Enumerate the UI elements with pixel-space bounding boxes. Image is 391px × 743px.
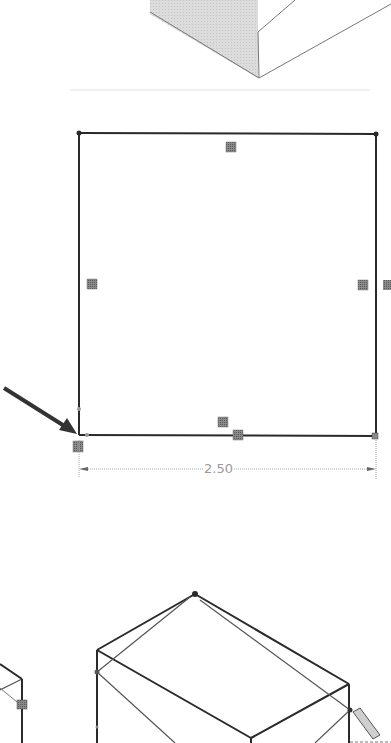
midpoint-relation-icon: [233, 430, 243, 440]
callout-arrow-icon: [4, 388, 77, 434]
vertex-point: [192, 591, 198, 597]
wireframe-box-construction: [97, 597, 350, 743]
vertical-relation-icon-left: [87, 279, 97, 289]
shaded-solid: [70, 0, 391, 90]
cad-figure: [0, 0, 391, 743]
horizontal-relation-icon: [226, 142, 236, 152]
pencil-icon: [353, 708, 380, 739]
partial-box-left: [0, 664, 27, 743]
relation-icon-edge: [383, 280, 391, 290]
origin-coincident-icon: [73, 441, 83, 452]
relation-markers: [73, 142, 391, 452]
dimension-label: 2.50: [203, 462, 234, 476]
vertical-relation-icon-right: [358, 280, 368, 290]
horizontal-relation-icon-bottom: [218, 417, 228, 427]
corner-point-icon: [372, 433, 378, 439]
square-sketch: [77, 131, 379, 437]
